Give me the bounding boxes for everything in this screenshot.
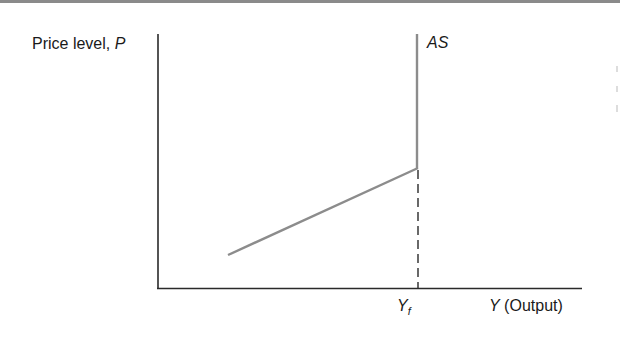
x-axis-variable: Y: [489, 297, 500, 314]
y-axis-variable: P: [115, 35, 126, 52]
yf-main: Y: [397, 297, 408, 314]
yf-label: Yf: [397, 297, 411, 317]
as-curve-label: AS: [427, 34, 448, 52]
x-axis-label: Y (Output): [489, 297, 563, 315]
y-axis-label: Price level, P: [32, 35, 125, 53]
x-axis-label-text: (Output): [500, 297, 563, 314]
yf-subscript: f: [408, 305, 411, 317]
as-sloped-segment: [228, 168, 418, 255]
y-axis-label-text: Price level,: [32, 35, 115, 52]
